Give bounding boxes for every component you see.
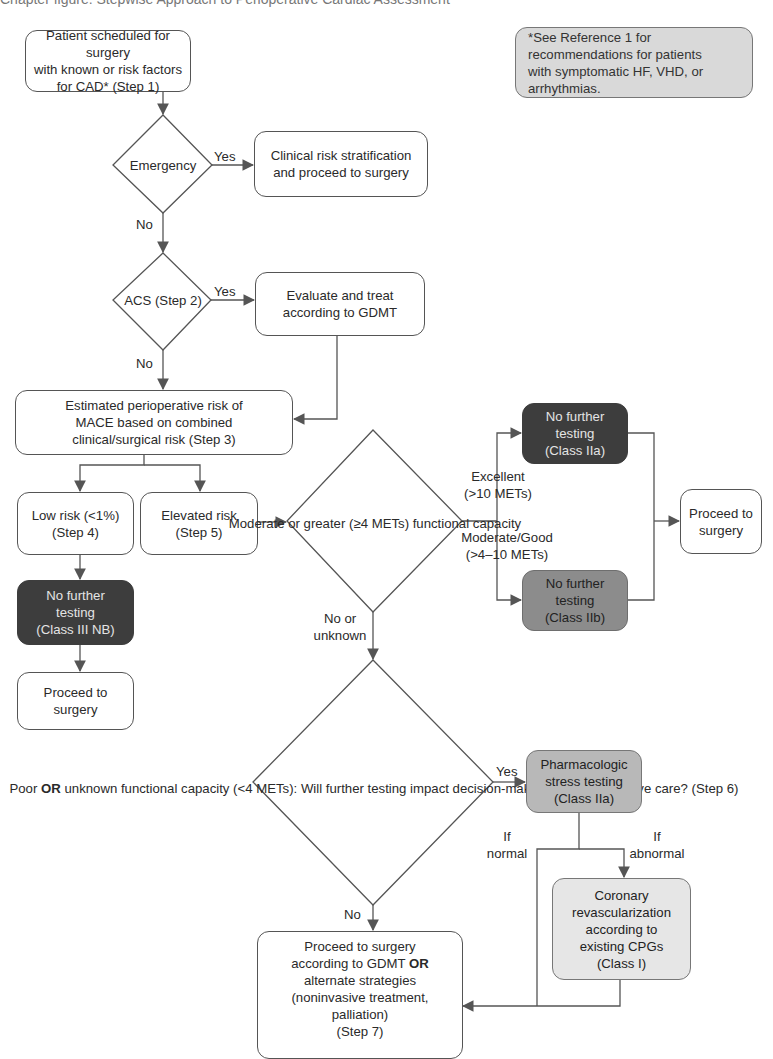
acs-yes-label: Yes — [214, 283, 236, 300]
step6-line: Will further testing impact — [301, 781, 449, 796]
step7-line: Proceed to surgery — [304, 938, 415, 955]
step7-line: alternate strategies — [304, 972, 416, 989]
evaluate-line: according to GDMT — [283, 304, 397, 321]
if-normal-line: If — [482, 828, 532, 845]
moderate-line: Moderate or greater — [229, 516, 346, 531]
no-or-unknown-line: unknown — [312, 627, 368, 644]
emergency-text: Emergency — [130, 158, 197, 173]
excellent-line: Excellent — [458, 468, 538, 485]
proceed-left-line: surgery — [54, 701, 98, 718]
if-abnormal-line: If — [625, 828, 689, 845]
moderate-line: (≥4 METs) functional — [349, 516, 469, 531]
pharm-line: stress testing — [545, 773, 623, 790]
clinical-risk-box[interactable]: Clinical risk stratification and proceed… — [254, 131, 428, 197]
pharm-line: Pharmacologic — [540, 756, 627, 773]
step7-line: (Step 7) — [337, 1023, 384, 1040]
step1-line: for CAD* (Step 1) — [57, 78, 160, 95]
proceed-right-line: surgery — [699, 522, 743, 539]
coronary-line: revascularization — [572, 904, 671, 921]
step7-line: according to GDMT OR — [291, 955, 429, 972]
emergency-yes-label: Yes — [214, 148, 236, 165]
elevated-line: (Step 5) — [176, 524, 223, 541]
if-abnormal-line: abnormal — [625, 845, 689, 862]
class-iii-line: (Class III NB) — [36, 621, 114, 638]
note-line: arrhythmias. — [528, 80, 601, 97]
mace-line: MACE based on combined — [76, 414, 233, 431]
acs-text: ACS — [124, 293, 151, 308]
moderate-good-label: Moderate/Good (>4–10 METs) — [455, 529, 559, 563]
coronary-line: according to — [586, 921, 658, 938]
proceed-right-line: Proceed to — [689, 505, 753, 522]
note-line: recommendations for patients — [528, 46, 702, 63]
evaluate-line: Evaluate and treat — [286, 287, 393, 304]
class-iia-line: testing — [556, 425, 595, 442]
coronary-line: existing CPGs — [580, 938, 664, 955]
proceed-left-line: Proceed to — [44, 684, 108, 701]
class-iia-line: (Class IIa) — [545, 442, 605, 459]
proceed-to-surgery-left-box[interactable]: Proceed to surgery — [17, 672, 134, 730]
excellent-line: (>10 METs) — [458, 485, 538, 502]
proceed-to-surgery-right-box[interactable]: Proceed to surgery — [680, 489, 762, 554]
step6-line: (Step 6) — [692, 781, 739, 796]
if-normal-line: normal — [482, 845, 532, 862]
step6-line: functional capacity — [121, 781, 230, 796]
step6-line: Poor OR unknown — [9, 781, 117, 796]
step1-line: with known or risk factors — [34, 61, 182, 78]
moderate-good-line: Moderate/Good — [455, 529, 559, 546]
header-clip: Chapter figure: Stepwise Approach to Per… — [0, 0, 450, 7]
no-further-testing-class-iia-box[interactable]: No further testing (Class IIa) — [522, 403, 628, 464]
class-iii-line: testing — [56, 604, 95, 621]
mace-line: clinical/surgical risk (Step 3) — [72, 431, 235, 448]
elevated-line: Elevated risk — [161, 507, 237, 524]
step7-line: (noninvasive treatment, — [291, 989, 428, 1006]
no-further-testing-class-iii-box[interactable]: No further testing (Class III NB) — [17, 580, 134, 645]
note-line: *See Reference 1 for — [528, 29, 651, 46]
step7-line: palliation) — [332, 1006, 388, 1023]
class-iib-line: (Class IIb) — [545, 609, 605, 626]
step1-box[interactable]: Patient scheduled for surgery with known… — [25, 30, 191, 92]
low-risk-box[interactable]: Low risk (<1%) (Step 4) — [17, 492, 134, 555]
class-iib-line: No further — [546, 575, 605, 592]
clinical-line: Clinical risk stratification — [271, 147, 412, 164]
no-further-testing-class-iib-box[interactable]: No further testing (Class IIb) — [522, 570, 628, 631]
mace-risk-box[interactable]: Estimated perioperative risk of MACE bas… — [15, 390, 293, 455]
coronary-line: (Class I) — [597, 955, 646, 972]
coronary-revascularization-box[interactable]: Coronary revascularization according to … — [552, 878, 691, 980]
acs-decision[interactable]: ACS (Step 2) — [124, 292, 202, 309]
coronary-line: Coronary — [594, 887, 648, 904]
step6-line: (<4 METs): — [233, 781, 297, 796]
low-risk-line: Low risk (<1%) — [32, 507, 120, 524]
mace-line: Estimated perioperative risk of — [65, 397, 242, 414]
step6-yes-label: Yes — [496, 763, 518, 780]
evaluate-treat-box[interactable]: Evaluate and treat according to GDMT — [255, 272, 425, 336]
pharmacologic-stress-testing-box[interactable]: Pharmacologic stress testing (Class IIa) — [526, 750, 642, 813]
step1-line: Patient scheduled for surgery — [26, 27, 190, 61]
if-normal-label: If normal — [482, 828, 532, 862]
pharm-line: (Class IIa) — [554, 790, 614, 807]
moderate-good-line: (>4–10 METs) — [455, 546, 559, 563]
reference-note: *See Reference 1 for recommendations for… — [515, 27, 753, 98]
excellent-label: Excellent (>10 METs) — [458, 468, 538, 502]
low-risk-line: (Step 4) — [52, 524, 99, 541]
acs-text: (Step 2) — [155, 293, 202, 308]
no-or-unknown-label: No or unknown — [312, 610, 368, 644]
clinical-line: and proceed to surgery — [273, 164, 409, 181]
class-iii-line: No further — [46, 587, 105, 604]
emergency-no-label: No — [136, 216, 153, 233]
emergency-decision[interactable]: Emergency — [130, 157, 197, 174]
no-or-unknown-line: No or — [312, 610, 368, 627]
acs-no-label: No — [136, 355, 153, 372]
note-line: with symptomatic HF, VHD, or — [528, 63, 703, 80]
class-iib-line: testing — [556, 592, 595, 609]
if-abnormal-label: If abnormal — [625, 828, 689, 862]
step7-box[interactable]: Proceed to surgery according to GDMT OR … — [257, 931, 463, 1059]
class-iia-line: No further — [546, 408, 605, 425]
step6-no-label: No — [344, 906, 361, 923]
